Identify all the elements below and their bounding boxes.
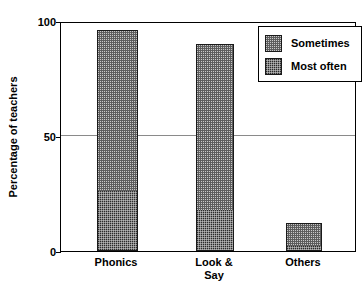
bar-segment-phonics-most-often[interactable] — [97, 191, 138, 251]
bar-phonics[interactable] — [97, 30, 138, 251]
x-tick-label-phonics: Phonics — [95, 256, 138, 269]
bar-segment-look-and-say-most-often[interactable] — [196, 210, 234, 251]
stacked-bar-chart-figure: Percentage of teachers 100 50 0 — [0, 0, 364, 292]
legend-swatch-most-often-icon — [265, 58, 282, 75]
legend-label-sometimes: Sometimes — [291, 37, 350, 49]
bar-look-and-say[interactable] — [196, 44, 234, 251]
y-tick-mark-0 — [56, 252, 61, 253]
bar-segment-others-most-often[interactable] — [286, 246, 322, 251]
chart-legend: Sometimes Most often — [258, 26, 362, 82]
y-tick-label-100: 100 — [30, 17, 56, 28]
bar-others[interactable] — [286, 223, 322, 251]
legend-item-sometimes[interactable]: Sometimes — [265, 33, 350, 53]
y-axis-tick-labels: 100 50 0 — [26, 0, 56, 292]
bar-segment-phonics-sometimes[interactable] — [97, 30, 138, 191]
bar-segment-look-and-say-sometimes[interactable] — [196, 44, 234, 210]
x-tick-label-look-and-say: Look & Say — [195, 256, 232, 282]
bar-segment-others-sometimes[interactable] — [286, 223, 322, 246]
y-axis-title: Percentage of teachers — [2, 22, 24, 252]
x-tick-label-others: Others — [285, 256, 320, 269]
y-tick-label-0: 0 — [30, 247, 56, 258]
x-axis-tick-labels: Phonics Look & Say Others — [60, 256, 356, 292]
legend-swatch-sometimes-icon — [265, 35, 282, 52]
legend-item-most-often[interactable]: Most often — [265, 56, 347, 76]
y-tick-label-50: 50 — [30, 132, 56, 143]
legend-label-most-often: Most often — [291, 60, 347, 72]
y-axis-title-label: Percentage of teachers — [7, 76, 19, 197]
